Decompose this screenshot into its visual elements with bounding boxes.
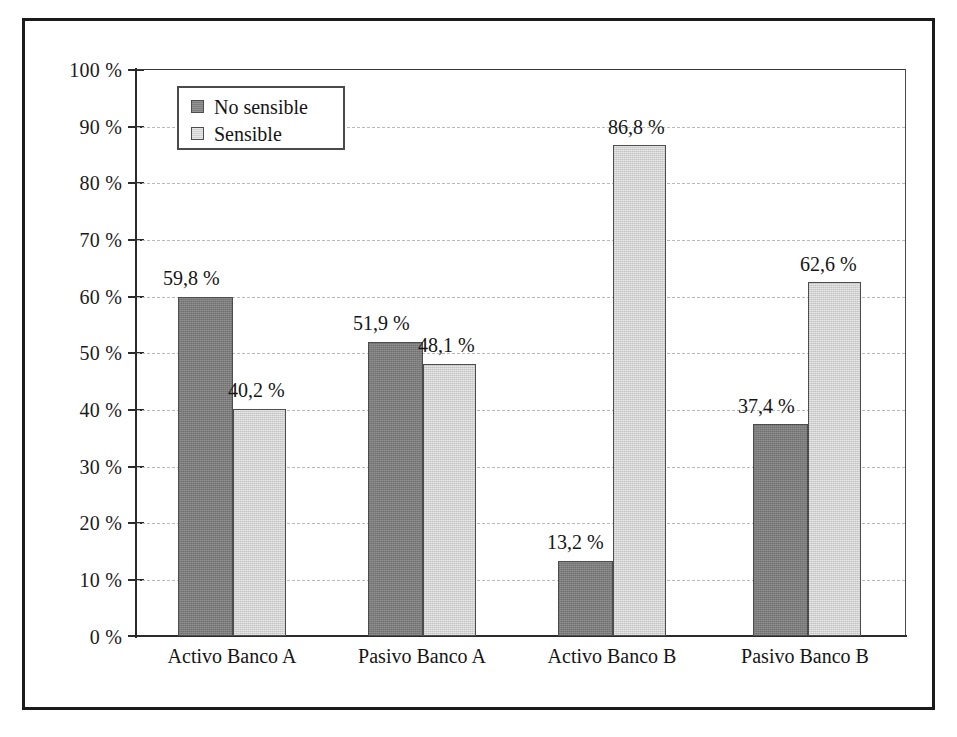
- data-label-sensible-activo-banco-b: 86,8 %: [608, 117, 665, 137]
- plot-right-border: [905, 69, 906, 637]
- bar-sensible-activo-banco-b: [613, 145, 666, 636]
- data-label-sensible-pasivo-banco-b: 62,6 %: [800, 254, 857, 274]
- gridline-80: [137, 183, 905, 184]
- y-tick-label-10: 10 %: [12, 570, 122, 590]
- legend-label-sensible: Sensible: [214, 124, 282, 144]
- data-label-no-sensible-pasivo-banco-a: 51,9 %: [353, 313, 410, 333]
- bar-no-sensible-pasivo-banco-a: [368, 342, 423, 636]
- x-tick-label-activo-banco-b: Activo Banco B: [532, 645, 692, 667]
- bar-sensible-pasivo-banco-b: [808, 282, 861, 636]
- y-axis-line: [135, 68, 137, 638]
- y-tick-label-30: 30 %: [12, 457, 122, 477]
- y-tick-label-40: 40 %: [12, 400, 122, 420]
- bar-no-sensible-pasivo-banco-b: [753, 424, 808, 636]
- data-label-sensible-pasivo-banco-a: 48,1 %: [418, 335, 475, 355]
- gridline-60: [137, 297, 905, 298]
- bar-sensible-activo-banco-a: [233, 409, 286, 636]
- x-tick-label-activo-banco-a: Activo Banco A: [152, 645, 312, 667]
- y-tick-label-90: 90 %: [12, 117, 122, 137]
- y-tick-label-0: 0 %: [12, 627, 122, 647]
- y-tick-label-20: 20 %: [12, 513, 122, 533]
- gridline-50: [137, 353, 905, 354]
- legend-item-no-sensible[interactable]: No sensible: [191, 93, 333, 120]
- legend-item-sensible[interactable]: Sensible: [191, 120, 333, 147]
- y-tick-label-70: 70 %: [12, 230, 122, 250]
- bar-no-sensible-activo-banco-a: [178, 297, 233, 636]
- x-tick-label-pasivo-banco-a: Pasivo Banco A: [342, 645, 502, 667]
- bar-chart: 100 % 90 % 80 % 70 % 60 % 50 % 40 % 30 %…: [0, 0, 957, 737]
- data-label-sensible-activo-banco-a: 40,2 %: [228, 380, 285, 400]
- light-gray-square-icon: [191, 127, 204, 140]
- data-label-no-sensible-pasivo-banco-b: 37,4 %: [738, 396, 795, 416]
- x-tick-label-pasivo-banco-b: Pasivo Banco B: [725, 645, 885, 667]
- y-tick-label-100: 100 %: [12, 60, 122, 80]
- bar-no-sensible-activo-banco-b: [558, 561, 613, 636]
- gridline-70: [137, 240, 905, 241]
- legend-label-no-sensible: No sensible: [214, 97, 308, 117]
- y-tick-label-60: 60 %: [12, 287, 122, 307]
- y-tick-label-50: 50 %: [12, 343, 122, 363]
- dark-gray-square-icon: [191, 100, 204, 113]
- y-tick-label-80: 80 %: [12, 173, 122, 193]
- data-label-no-sensible-activo-banco-b: 13,2 %: [547, 532, 604, 552]
- chart-legend: No sensible Sensible: [177, 86, 345, 150]
- plot-top-border: [135, 69, 906, 70]
- y-axis-tick-labels: 100 % 90 % 80 % 70 % 60 % 50 % 40 % 30 %…: [10, 0, 122, 737]
- data-label-no-sensible-activo-banco-a: 59,8 %: [163, 268, 220, 288]
- bar-sensible-pasivo-banco-a: [423, 364, 476, 636]
